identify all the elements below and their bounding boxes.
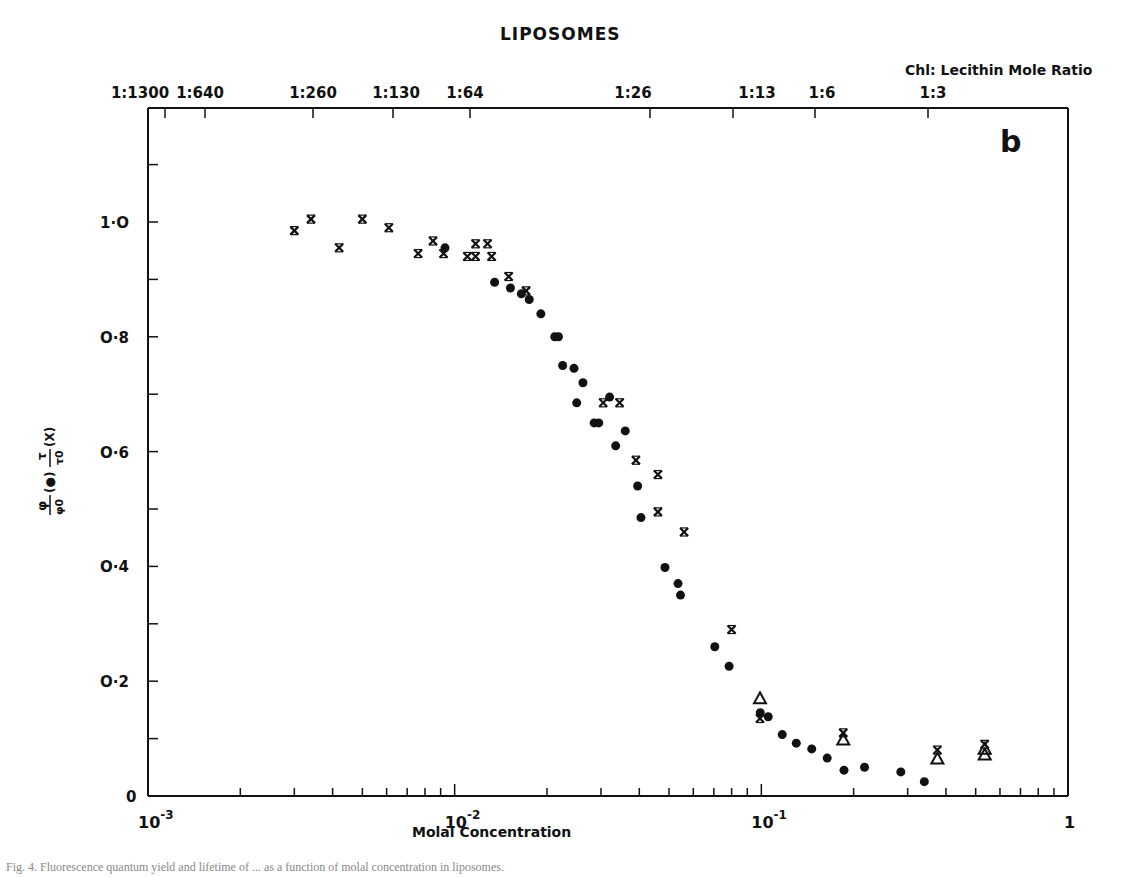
tau-x-point — [472, 252, 480, 260]
tau-x-point — [654, 508, 662, 516]
tau-x-point — [385, 224, 393, 232]
phi-dot-point — [839, 766, 848, 775]
tau-x-point — [472, 240, 480, 248]
y-label-tau-den: τ0 — [53, 450, 66, 465]
phi-dot-point — [558, 361, 567, 370]
top-tick-label: 1:130 — [372, 84, 420, 102]
phi-dot-point — [674, 579, 683, 588]
phi-dot-point — [896, 767, 905, 776]
y-tick-label: 1·O — [100, 214, 129, 232]
y-label-phi-num: φ — [34, 501, 49, 511]
tau-x-point — [728, 626, 736, 634]
phi-dot-point — [621, 426, 630, 435]
tau-x-point — [307, 215, 315, 223]
tau-x-point — [632, 456, 640, 464]
phi-dot-point — [536, 309, 545, 318]
y-tick-label: O·6 — [100, 444, 129, 462]
tau-x-point — [599, 399, 607, 407]
phi-dot-point — [764, 712, 773, 721]
top-tick-label: 1:1300 — [111, 84, 169, 102]
tau-x-point — [484, 240, 492, 248]
figure-caption: Fig. 4. Fluorescence quantum yield and l… — [6, 860, 1136, 875]
phi-dot-point — [778, 730, 787, 739]
phi-dot-point — [554, 332, 563, 341]
plot-frame — [148, 108, 1068, 796]
x-tick-label: 10-1 — [751, 808, 787, 832]
phi-dot-point — [660, 563, 669, 572]
phi-dot-point — [490, 278, 499, 287]
phi-dot-point — [594, 418, 603, 427]
phi-dot-point — [572, 398, 581, 407]
triangle-point — [754, 692, 766, 703]
phi-dot-point — [710, 642, 719, 651]
y-label-tau-num: τ — [35, 452, 49, 460]
y-label-tau-marker: (X) — [43, 427, 57, 447]
triangle-point — [837, 734, 849, 745]
phi-dot-point — [725, 662, 734, 671]
top-tick-label: 1:64 — [446, 84, 483, 102]
tau-x-point — [654, 471, 662, 479]
y-label-phi-den: φ0 — [53, 498, 66, 515]
y-tick-label: O·8 — [100, 329, 129, 347]
data-points — [290, 215, 990, 786]
y-axis-label: φ φ0 (●) τ τ0 (X) — [34, 427, 66, 515]
x-tick-label-exponent: -1 — [774, 808, 787, 822]
phi-dot-point — [636, 513, 645, 522]
phi-dot-point — [823, 754, 832, 763]
phi-dot-point — [676, 591, 685, 600]
phi-dot-point — [570, 364, 579, 373]
tau-x-point — [290, 227, 298, 235]
top-axis-ticks: 1:13001:6401:2601:1301:641:261:131:61:3 — [111, 84, 947, 118]
phi-dot-point — [860, 763, 869, 772]
phi-dot-point — [506, 284, 515, 293]
tau-x-point — [429, 237, 437, 245]
top-tick-label: 1:3 — [920, 84, 947, 102]
tau-x-point — [414, 250, 422, 258]
x-tick-label: 10-3 — [138, 808, 174, 832]
x-tick-label: 1 — [1064, 813, 1075, 832]
tau-x-point — [505, 273, 513, 281]
top-tick-label: 1:640 — [176, 84, 224, 102]
top-tick-label: 1:13 — [738, 84, 775, 102]
phi-dot-point — [633, 482, 642, 491]
y-axis-ticks: 0O·2O·4O·6O·81·O — [100, 165, 158, 806]
phi-dot-point — [792, 739, 801, 748]
top-tick-label: 1:6 — [809, 84, 836, 102]
x-axis-label: Molal Concentration — [412, 824, 571, 840]
y-tick-label: O·2 — [100, 673, 129, 691]
phi-dot-point — [807, 744, 816, 753]
top-tick-label: 1:26 — [614, 84, 651, 102]
phi-dot-point — [920, 777, 929, 786]
panel-label: b — [1000, 124, 1021, 159]
tau-x-point — [680, 528, 688, 536]
phi-dot-point — [578, 378, 587, 387]
y-tick-label: O·4 — [100, 558, 129, 576]
tau-x-point — [335, 244, 343, 252]
y-label-phi-marker: (●) — [43, 472, 57, 493]
x-axis-ticks: 10-310-210-11 — [138, 784, 1075, 832]
x-tick-label-exponent: -3 — [160, 808, 173, 822]
top-tick-label: 1:260 — [289, 84, 337, 102]
tau-x-point — [616, 399, 624, 407]
tau-x-point — [463, 252, 471, 260]
phi-dot-point — [611, 441, 620, 450]
x-tick-label-exponent: -2 — [467, 808, 480, 822]
y-tick-label: 0 — [126, 788, 136, 806]
chart: 10-310-210-11 0O·2O·4O·6O·81·O 1:13001:6… — [0, 0, 1142, 877]
triangle-point — [931, 753, 943, 764]
tau-x-point — [488, 252, 496, 260]
top-axis-title: Chl: Lecithin Mole Ratio — [905, 62, 1093, 78]
phi-dot-point — [525, 295, 534, 304]
chart-title: LIPOSOMES — [500, 24, 621, 44]
tau-x-point — [358, 215, 366, 223]
